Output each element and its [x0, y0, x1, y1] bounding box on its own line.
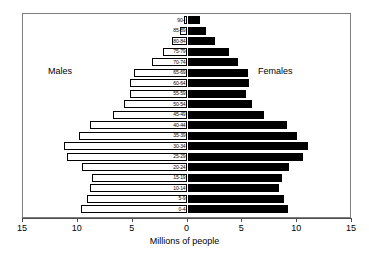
pyramid-row: 70-74 [23, 57, 350, 68]
series-label-females: Females [258, 66, 293, 76]
x-axis-tick [132, 218, 133, 222]
age-group-label: 45-49 [148, 110, 188, 119]
pyramid-row: 80-84 [23, 36, 350, 47]
pyramid-row: 40-44 [23, 120, 350, 131]
age-group-label: 75-79 [148, 47, 188, 56]
x-axis-tick-label: 0 [184, 223, 189, 233]
bar-female [188, 58, 238, 66]
bar-female [188, 121, 288, 129]
age-group-label: 20-24 [148, 163, 188, 172]
bar-female [188, 100, 253, 108]
age-group-label: 25-29 [148, 152, 188, 161]
population-pyramid-chart: 0-45-910-1415-1920-2425-2930-3435-3940-4… [0, 0, 369, 260]
x-axis-tick-label: 5 [239, 223, 244, 233]
bar-female [188, 163, 290, 171]
age-group-label: 65-69 [148, 68, 188, 77]
bar-female [188, 27, 207, 35]
age-group-label: 30-34 [148, 142, 188, 151]
bar-female [188, 195, 285, 203]
pyramid-row: 75-79 [23, 47, 350, 58]
age-group-label: 0-4 [148, 205, 188, 214]
bar-female [188, 184, 279, 192]
bar-female [188, 79, 249, 87]
age-group-label: 80-84 [148, 37, 188, 46]
age-group-label: 35-39 [148, 131, 188, 140]
age-group-label: 60-64 [148, 79, 188, 88]
pyramid-row: 5-9 [23, 194, 350, 205]
x-axis-tick [296, 218, 297, 222]
pyramid-row: 90+ [23, 15, 350, 26]
x-axis-tick [187, 218, 188, 222]
bar-female [188, 16, 200, 24]
age-group-label: 10-14 [148, 184, 188, 193]
x-axis-tick [77, 218, 78, 222]
x-axis-tick [22, 218, 23, 222]
age-group-label: 85-89 [148, 26, 188, 35]
bar-female [188, 48, 230, 56]
x-axis-tick-label: 10 [72, 223, 82, 233]
plot-area: 0-45-910-1415-1920-2425-2930-3435-3940-4… [22, 13, 351, 218]
pyramid-row: 10-14 [23, 183, 350, 194]
pyramid-row: 25-29 [23, 152, 350, 163]
pyramid-row: 15-19 [23, 173, 350, 184]
age-group-label: 70-74 [148, 58, 188, 67]
series-label-males: Males [48, 66, 72, 76]
age-group-label: 50-54 [148, 100, 188, 109]
x-axis-tick [351, 218, 352, 222]
x-axis-tick-label: 15 [17, 223, 27, 233]
age-group-label: 5-9 [148, 194, 188, 203]
x-axis-tick [241, 218, 242, 222]
age-group-label: 90+ [148, 16, 188, 25]
bar-female [188, 142, 309, 150]
age-group-label: 40-44 [148, 121, 188, 130]
x-axis-tick-label: 15 [346, 223, 356, 233]
bar-female [188, 69, 248, 77]
pyramid-row: 50-54 [23, 99, 350, 110]
pyramid-row: 85-89 [23, 26, 350, 37]
bar-female [188, 153, 303, 161]
x-axis-tick-label: 10 [291, 223, 301, 233]
x-axis-tick-label: 5 [129, 223, 134, 233]
bar-female [188, 132, 298, 140]
x-axis-title: Millions of people [0, 236, 369, 246]
bar-female [188, 37, 215, 45]
pyramid-row: 60-64 [23, 78, 350, 89]
pyramid-row: 30-34 [23, 141, 350, 152]
bar-female [188, 90, 246, 98]
pyramid-row: 35-39 [23, 131, 350, 142]
bar-female [188, 111, 265, 119]
age-group-label: 55-59 [148, 89, 188, 98]
age-group-label: 15-19 [148, 173, 188, 182]
pyramid-row: 65-69 [23, 68, 350, 79]
pyramid-row: 55-59 [23, 89, 350, 100]
pyramid-row: 0-4 [23, 204, 350, 215]
pyramid-row: 20-24 [23, 162, 350, 173]
pyramid-row: 45-49 [23, 110, 350, 121]
bar-female [188, 205, 289, 213]
bar-female [188, 174, 282, 182]
